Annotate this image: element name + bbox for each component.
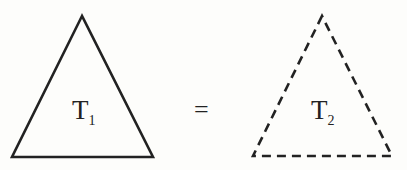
label-t1: T1 [72, 97, 96, 128]
diagram-canvas [0, 0, 407, 170]
label-t2: T2 [311, 97, 335, 128]
triangle-t2 [253, 16, 392, 156]
equals-sign: = [194, 97, 209, 123]
triangle-t1 [12, 16, 153, 157]
